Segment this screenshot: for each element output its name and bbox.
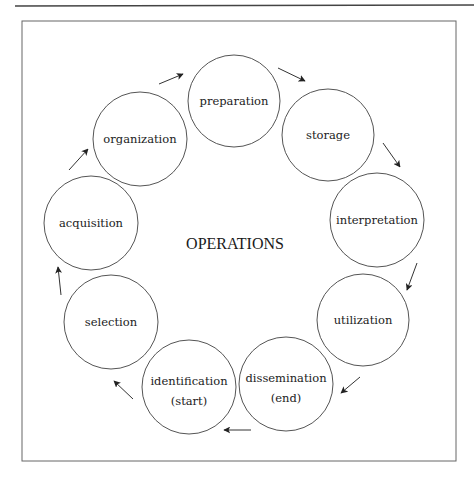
- arrow-icon-acquisition-to-organization: [69, 149, 88, 170]
- node-label: organization: [103, 132, 177, 146]
- node-label: selection: [85, 315, 138, 329]
- arrow-icon-identification-to-selection: [114, 381, 133, 399]
- node-label: storage: [306, 128, 350, 142]
- node-organization: organization: [93, 92, 187, 186]
- node-label: identification: [150, 374, 228, 388]
- node-label: preparation: [200, 94, 269, 108]
- node-preparation: preparation: [188, 55, 280, 147]
- node-label: acquisition: [59, 216, 124, 230]
- node-identification: identification(start): [142, 340, 236, 434]
- node-interpretation: interpretation: [330, 173, 424, 267]
- arrow-icon-utilization-to-dissemination: [341, 377, 360, 393]
- arrow-icon-organization-to-preparation: [159, 74, 183, 84]
- node-acquisition: acquisition: [44, 176, 138, 270]
- arrow-icon-interpretation-to-utilization: [407, 263, 417, 290]
- arrow-icon-storage-to-interpretation: [383, 143, 400, 167]
- node-utilization: utilization: [317, 274, 409, 366]
- node-selection: selection: [64, 275, 158, 369]
- arrow-icon-preparation-to-storage: [278, 68, 305, 81]
- node-label: dissemination: [245, 371, 327, 385]
- center-title: OPERATIONS: [186, 235, 284, 252]
- node-sublabel: (end): [271, 391, 302, 405]
- node-label: utilization: [334, 313, 393, 327]
- node-sublabel: (start): [171, 394, 207, 408]
- operations-cycle-diagram: preparationstorageinterpretationutilizat…: [0, 0, 474, 482]
- node-label: interpretation: [336, 213, 418, 227]
- node-dissemination: dissemination(end): [239, 337, 333, 431]
- arrow-icon-selection-to-acquisition: [58, 267, 61, 295]
- top-rule-divider: [15, 5, 474, 6]
- node-storage: storage: [282, 89, 374, 181]
